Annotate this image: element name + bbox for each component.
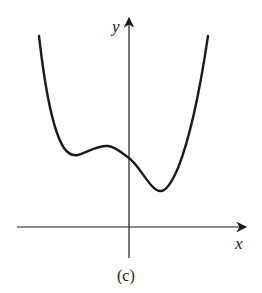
y-axis-label: y <box>110 17 120 36</box>
function-graph: y x (c) <box>0 0 262 293</box>
x-axis-label: x <box>234 234 243 253</box>
figure-caption: (c) <box>117 267 135 285</box>
function-curve <box>39 36 208 191</box>
